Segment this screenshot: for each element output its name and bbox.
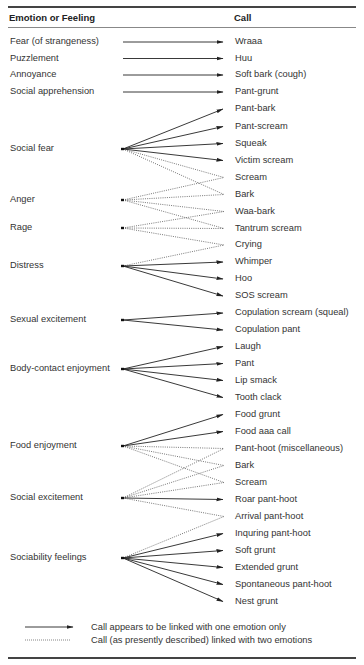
link-source-dot-icon — [121, 148, 124, 150]
solid-link-arrow — [123, 432, 223, 447]
dotted-link-line — [123, 149, 224, 195]
solid-link-arrow — [123, 498, 223, 500]
link-source-dot-icon — [121, 497, 124, 499]
solid-link-arrow — [123, 415, 223, 447]
solid-link-arrow — [123, 320, 223, 330]
dotted-link-line — [123, 195, 224, 201]
dotted-link-line — [123, 446, 224, 483]
legend-solid-label: Call appears to be linked with one emoti… — [91, 622, 286, 633]
dotted-link-line — [123, 228, 224, 229]
dotted-link-line — [123, 200, 224, 229]
dotted-link-line — [123, 466, 224, 499]
link-source-dot-icon — [121, 557, 124, 559]
solid-link-arrow — [123, 149, 223, 161]
solid-link-arrow — [123, 558, 223, 602]
solid-link-arrow — [123, 558, 223, 585]
solid-link-arrow — [123, 144, 223, 150]
solid-link-arrow — [123, 369, 223, 398]
link-source-dot-icon — [121, 319, 124, 321]
dotted-link-line — [123, 446, 224, 466]
solid-link-arrow — [123, 109, 223, 149]
solid-link-arrow — [123, 266, 223, 279]
legend-dotted-label: Call (as presently described) linked wit… — [91, 635, 312, 646]
dotted-link-line — [123, 446, 224, 449]
dotted-link-line — [123, 200, 224, 212]
link-source-dot-icon — [121, 445, 124, 447]
solid-link-arrow — [123, 262, 223, 266]
link-diagram — [0, 0, 364, 665]
dotted-link-line — [123, 178, 224, 201]
solid-link-arrow — [123, 313, 223, 320]
bottom-rule — [8, 657, 356, 659]
dotted-link-line — [123, 498, 224, 517]
dotted-link-line — [123, 483, 224, 499]
dotted-link-line — [123, 212, 224, 229]
solid-link-arrow — [123, 558, 223, 568]
link-source-dot-icon — [121, 368, 124, 370]
dotted-link-line — [123, 149, 224, 178]
solid-link-arrow — [123, 364, 223, 370]
solid-link-arrow — [123, 127, 223, 150]
link-source-dot-icon — [121, 265, 124, 267]
link-source-dot-icon — [121, 199, 124, 201]
dotted-link-line — [123, 228, 224, 245]
solid-link-arrow — [123, 369, 223, 381]
solid-link-arrow — [123, 347, 223, 370]
link-source-dot-icon — [121, 227, 124, 229]
solid-link-arrow — [123, 266, 223, 296]
